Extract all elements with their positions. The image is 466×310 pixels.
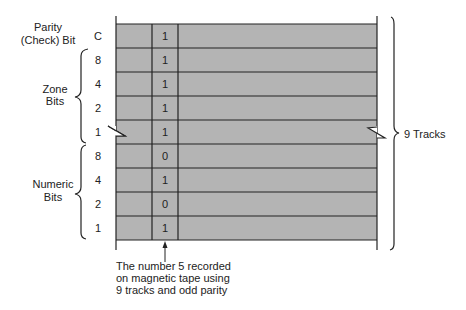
caption-arrow-head [163,241,168,248]
caption-line1: The number 5 recorded [116,260,231,272]
parity-label-line1: Parity [34,21,63,33]
numeric-bits-brace [75,145,86,239]
tracks-brace [390,17,399,250]
bit-value: 1 [162,174,168,186]
track-label: 8 [95,150,101,162]
numeric-label-line2: Bits [44,191,63,203]
track-label: C [94,30,102,42]
track-labels: C 8 4 2 1 8 4 2 1 [94,30,102,234]
bit-value: 1 [162,78,168,90]
bit-value: 1 [162,126,168,138]
numeric-label-line1: Numeric [33,178,74,190]
zone-label-line1: Zone [42,83,67,95]
bit-value: 0 [162,198,168,210]
magnetic-tape-diagram: C 8 4 2 1 8 4 2 1 1 1 1 1 1 0 1 0 1 Pari… [0,0,466,310]
bit-value: 1 [162,54,168,66]
tape-body [116,24,377,240]
track-label: 1 [95,126,101,138]
track-label: 8 [95,54,101,66]
bit-value: 1 [162,222,168,234]
parity-label-line2: (Check) Bit [21,34,75,46]
caption-line3: 9 tracks and odd parity [116,284,228,296]
bit-value: 1 [162,102,168,114]
zone-label-line2: Bits [46,95,65,107]
bit-value: 1 [162,30,168,42]
track-label: 1 [95,222,101,234]
tracks-label: 9 Tracks [404,128,446,140]
track-label: 4 [95,78,101,90]
bit-values: 1 1 1 1 1 0 1 0 1 [162,30,168,234]
track-label: 4 [95,174,101,186]
zone-bits-brace [75,49,88,143]
track-label: 2 [95,198,101,210]
track-label: 2 [95,102,101,114]
bit-value: 0 [162,150,168,162]
caption-line2: on magnetic tape using [116,272,230,284]
